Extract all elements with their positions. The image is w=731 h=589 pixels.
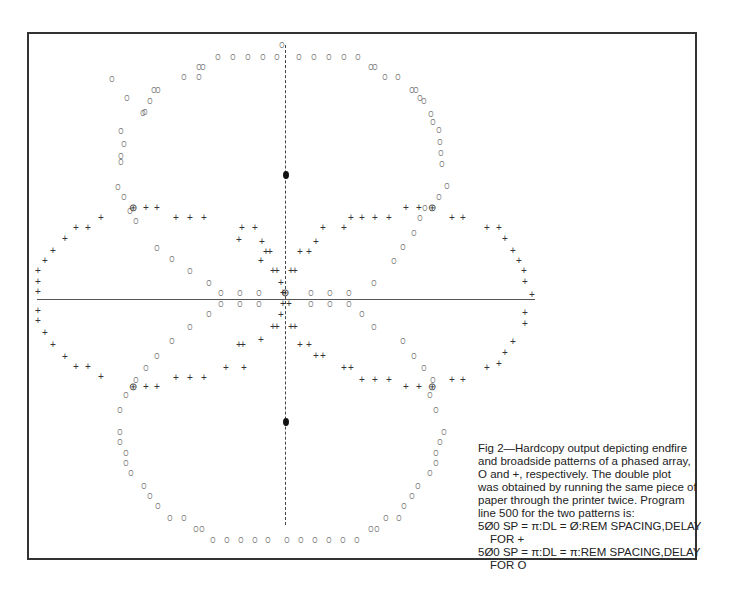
endfire-point-O: O [417,214,422,223]
broadside-point-plus: + [372,213,378,223]
broadside-point-plus: + [496,223,502,233]
broadside-point-plus: + [416,203,422,213]
endfire-point-O: O [245,53,250,62]
endfire-point-O: O [372,63,377,72]
endfire-point-O: O [256,300,261,309]
endfire-point-O: O [118,158,123,167]
endfire-point-O: O [441,428,446,437]
broadside-point-plus: + [143,382,149,392]
endfire-point-O: O [296,53,301,62]
endfire-point-O: O [218,300,223,309]
endfire-point-O: O [187,323,192,332]
vertical-axis-dashed [285,45,286,525]
endfire-point-O: O [354,536,359,545]
endfire-point-O: O [256,289,261,298]
broadside-point-plus: + [313,351,319,361]
endfire-point-O: O [123,459,128,468]
broadside-point-plus: + [449,375,455,385]
broadside-point-plus: + [239,223,245,233]
endfire-point-O: O [121,140,126,149]
program-line-endfire: 5Ø0 SP = π:DL = π:REM SPACING,DELAY [478,546,708,559]
endfire-point-O: O [154,352,159,361]
endfire-point-O: O [265,536,270,545]
endfire-point-O: O [312,536,317,545]
endfire-point-O: O [444,182,449,191]
broadside-point-plus: + [348,363,354,373]
endfire-point-O: O [411,229,416,238]
endfire-point-O: O [436,193,441,202]
caption-line: line 500 for the two patterns is: [478,507,708,520]
endfire-point-O: O [371,323,376,332]
endfire-point-O: O [428,110,433,119]
endfire-point-O: O [368,525,373,534]
endfire-point-O: O [224,536,229,545]
endfire-point-O: O [237,300,242,309]
endfire-point-O: O [438,149,443,158]
broadside-point-plus: + [201,373,207,383]
endfire-point-O: O [117,438,122,447]
endfire-point-O: O [433,406,438,415]
broadside-point-plus: + [292,266,298,276]
endfire-point-O: O [400,337,405,346]
endfire-point-O: O [409,492,414,501]
endfire-point-O: O [415,482,420,491]
endfire-point-O: O [284,536,289,545]
endfire-point-O: O [436,126,441,135]
broadside-point-plus: + [236,235,242,245]
broadside-point-plus: + [460,213,466,223]
endfire-point-O: O [167,514,172,523]
endfire-point-O: O [169,337,174,346]
broadside-point-plus: + [154,382,160,392]
broadside-point-plus: + [522,308,528,318]
endfire-point-O: O [341,53,346,62]
endfire-point-O: O [401,502,406,511]
endfire-point-O: O [121,193,126,202]
broadside-point-plus: + [240,340,246,350]
broadside-point-plus: + [85,223,91,233]
broadside-point-plus: + [267,247,273,257]
broadside-point-plus: + [173,213,179,223]
broadside-point-plus: + [386,213,392,223]
broadside-point-plus: + [359,213,365,223]
caption-line: Fig 2—Hardcopy output depicting endfire [478,442,708,455]
endfire-point-O: O [238,536,243,545]
overlap-point: ⊕ [428,382,436,392]
broadside-point-plus: + [521,266,527,276]
program-line-endfire-cont: FOR O [478,559,708,572]
endfire-point-O: O [421,97,426,106]
endfire-point-O: O [117,428,122,437]
endfire-point-O: O [433,449,438,458]
endfire-point-O: O [346,289,351,298]
broadside-point-plus: + [258,256,264,266]
endfire-point-O: O [155,86,160,95]
endfire-point-O: O [181,514,186,523]
overlap-point: ⊕ [281,288,289,298]
broadside-point-plus: + [223,363,229,373]
endfire-point-O: O [123,391,128,400]
endfire-point-O: O [218,289,223,298]
overlap-point: ⊕ [428,203,436,213]
endfire-point-O: O [260,53,265,62]
broadside-point-plus: + [460,375,466,385]
broadside-point-plus: + [484,363,490,373]
endfire-point-O: O [147,97,152,106]
endfire-point-O: O [193,525,198,534]
endfire-point-O: O [169,255,174,264]
endfire-point-O: O [308,300,313,309]
broadside-point-plus: + [154,203,160,213]
endfire-point-O: O [298,536,303,545]
endfire-point-O: O [396,514,401,523]
broadside-point-plus: + [510,246,516,256]
endfire-point-O: O [433,459,438,468]
endfire-point-O: O [430,118,435,127]
endfire-point-O: O [181,73,186,82]
endfire-point-O: O [327,289,332,298]
broadside-point-plus: + [35,316,41,326]
endfire-point-O: O [109,75,114,84]
broadside-point-plus: + [297,247,303,257]
endfire-point-O: O [355,53,360,62]
broadside-point-plus: + [341,363,347,373]
endfire-point-O: O [395,73,400,82]
endfire-point-O: O [128,469,133,478]
broadside-point-plus: + [280,299,286,309]
